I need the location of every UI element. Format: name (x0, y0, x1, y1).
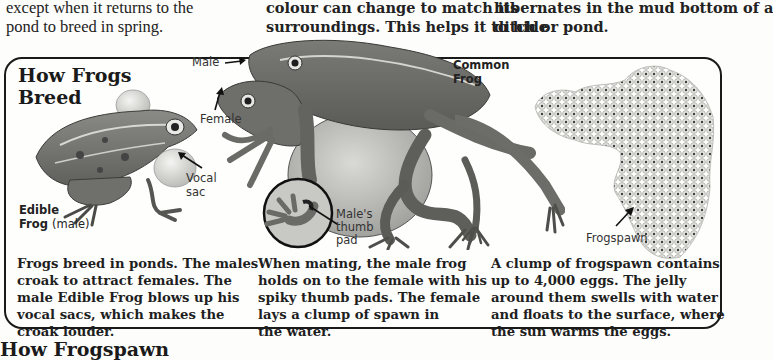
common-frog-label: Common Frog (453, 58, 509, 86)
male-arrow-icon (224, 56, 248, 68)
caption-line: When mating, the male frog (258, 255, 487, 272)
caption-line: A clump of frogspawn contains (491, 255, 725, 272)
text-line: ditch or pond. (494, 17, 773, 36)
caption-line: croak to attract females. The (17, 272, 258, 289)
caption-line: Frogs breed in ponds. The males (17, 255, 258, 272)
female-arrow-icon (211, 86, 225, 112)
caption-line: male Edible Frog blows up his (17, 289, 258, 306)
edible-frog-sex-note: (male) (52, 217, 90, 231)
vocal-sac-label-line-1: Vocal (186, 171, 217, 185)
caption-line: spiky thumb pads. The female (258, 289, 487, 306)
next-section-heading: How Frogspawn (0, 338, 169, 360)
caption-line: lays a clump of spawn in (258, 306, 487, 323)
caption-line: the water. (258, 323, 487, 340)
common-frog-label-line-2: Frog (453, 72, 509, 86)
text-line: hibernates in the mud bottom of a (494, 0, 773, 17)
frogspawn-label: Frogspawn (586, 231, 648, 245)
thumb-pad-inset (259, 176, 339, 250)
thumb-pad-label-line-3: pad (336, 234, 374, 247)
caption-line: up to 4,000 eggs. The jelly (491, 272, 725, 289)
female-label: Female (200, 112, 242, 126)
panel-title-line-1: How Frogs (18, 64, 131, 86)
caption-line: the sun warms the eggs. (491, 323, 725, 340)
edible-frog-label-line-2: Frog (19, 217, 48, 231)
caption-line: around them swells with water (491, 289, 725, 306)
top-text-column-3: other enemies. In winter, the frog hiber… (494, 0, 773, 36)
caption-line: vocal sacs, which makes the (17, 306, 258, 323)
text-line: except when it returns to the (6, 0, 193, 17)
caption-line: and floats to the surface, where (491, 306, 725, 323)
vocal-sac-arrow-icon (176, 150, 204, 170)
common-frog-label-line-1: Common (453, 58, 509, 72)
caption-right: A clump of frogspawn contains up to 4,00… (491, 255, 725, 340)
frogspawn-arrow-icon (613, 204, 637, 228)
vocal-sac-label-line-2: sac (186, 185, 217, 199)
edible-frog-label-line-1: Edible (19, 203, 89, 217)
vocal-sac-label: Vocal sac (186, 171, 217, 199)
caption-line: holds on to the female with his (258, 272, 487, 289)
thumb-pad-label: Male's thumb pad (336, 208, 374, 247)
caption-middle: When mating, the male frog holds on to t… (258, 255, 487, 340)
caption-left: Frogs breed in ponds. The males croak to… (17, 255, 258, 340)
male-label: Male (192, 55, 219, 69)
top-text-column-1: except when it returns to the pond to br… (6, 0, 193, 36)
edible-frog-label: Edible Frog (male) (19, 203, 89, 231)
text-line: pond to breed in spring. (6, 17, 193, 36)
